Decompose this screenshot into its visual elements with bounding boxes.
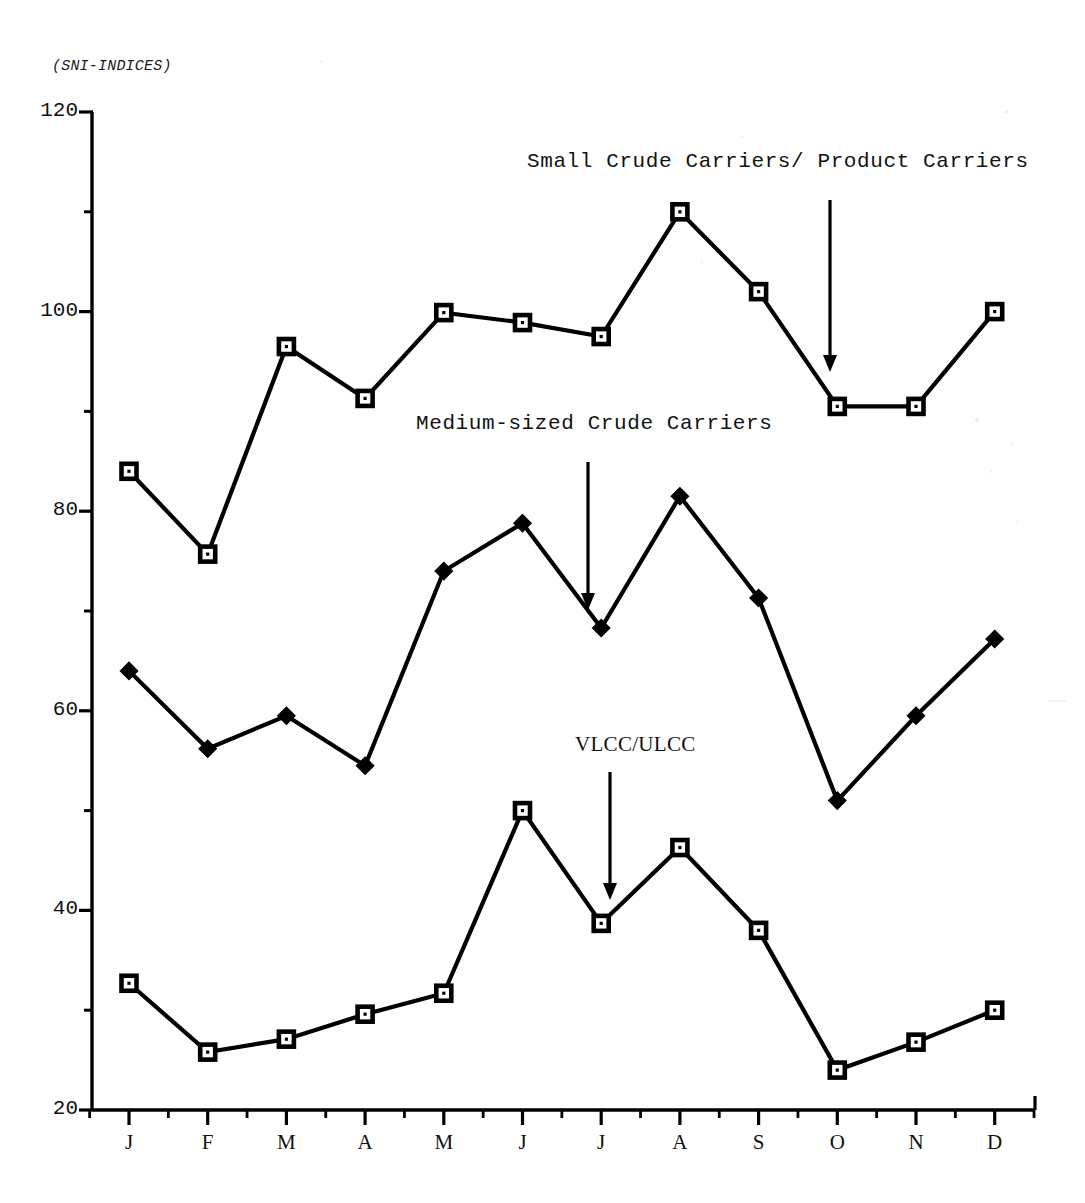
data-point-marker-center — [757, 290, 760, 293]
paper-speck — [1016, 520, 1019, 523]
data-point-marker-center — [914, 1041, 917, 1044]
data-point-marker-center — [757, 929, 760, 932]
data-point-marker-center — [364, 397, 367, 400]
series-line — [129, 212, 995, 554]
data-point-marker-center — [521, 321, 524, 324]
y-axis-tick-label: 60 — [20, 698, 78, 721]
data-point-marker-center — [914, 405, 917, 408]
data-point-marker-center — [285, 345, 288, 348]
x-axis-tick-label: J — [498, 1130, 548, 1155]
data-point-marker-center — [836, 405, 839, 408]
x-axis-tick-label: D — [970, 1130, 1020, 1155]
y-axis-tick-label: 20 — [20, 1097, 78, 1120]
x-axis-tick-label: A — [655, 1130, 705, 1155]
y-axis-tick-label: 100 — [20, 299, 78, 322]
annotation-arrow-head — [823, 355, 837, 372]
data-point-marker-center — [206, 553, 209, 556]
x-axis-tick-label: F — [183, 1130, 233, 1155]
paper-speck — [700, 260, 703, 263]
annotation-arrow — [823, 200, 837, 372]
series-annotation-label: VLCC/ULCC — [575, 732, 696, 757]
line-chart-plot — [0, 0, 1085, 1203]
y-axis-tick-label: 80 — [20, 498, 78, 521]
data-point-marker-center — [442, 992, 445, 995]
chart-series-layer — [121, 204, 1004, 1077]
data-point-marker-center — [364, 1013, 367, 1016]
series-1 — [122, 204, 1003, 561]
data-point-marker-center — [206, 1051, 209, 1054]
x-axis-tick-label: M — [419, 1130, 469, 1155]
x-axis-tick-label: S — [734, 1130, 784, 1155]
data-point-marker-center — [836, 1068, 839, 1071]
data-point-marker-center — [993, 1009, 996, 1012]
data-point-marker-center — [678, 846, 681, 849]
paper-speck — [1005, 110, 1008, 113]
data-point-marker-center — [521, 809, 524, 812]
chart-axes — [79, 112, 1035, 1125]
series-line — [129, 811, 995, 1070]
data-point-marker-center — [127, 982, 130, 985]
data-point-marker-center — [678, 210, 681, 213]
series-annotation-label: Small Crude Carriers/ Product Carriers — [527, 150, 1029, 173]
data-point-marker-center — [127, 470, 130, 473]
data-point-marker-center — [442, 311, 445, 314]
x-axis-tick-label: J — [576, 1130, 626, 1155]
data-point-marker-center — [993, 310, 996, 313]
annotation-arrow-head — [603, 883, 617, 900]
paper-speck — [990, 470, 993, 473]
paper-speck — [320, 60, 323, 63]
paper-speck — [1010, 442, 1013, 445]
y-axis-tick-label: 120 — [20, 99, 78, 122]
x-axis-tick-label: M — [261, 1130, 311, 1155]
x-axis-tick-label: O — [812, 1130, 862, 1155]
paper-speck — [975, 418, 979, 422]
chart-canvas: (SNI-INDICES) 12010080604020 JFMAMJJASON… — [0, 0, 1085, 1203]
series-3 — [122, 803, 1003, 1077]
paper-speck — [1048, 700, 1066, 702]
data-point-marker-center — [600, 335, 603, 338]
data-point-marker-center — [285, 1038, 288, 1041]
x-axis-tick-label: J — [104, 1130, 154, 1155]
series-annotation-label: Medium-sized Crude Carriers — [416, 412, 772, 435]
series-line — [129, 496, 995, 800]
x-axis-tick-label: N — [891, 1130, 941, 1155]
series-2 — [121, 488, 1004, 809]
annotation-arrow — [603, 772, 617, 900]
y-axis-tick-label: 40 — [20, 897, 78, 920]
x-axis-tick-label: A — [340, 1130, 390, 1155]
annotation-arrow — [581, 462, 595, 610]
paper-speck — [740, 135, 743, 138]
data-point-marker-center — [600, 922, 603, 925]
